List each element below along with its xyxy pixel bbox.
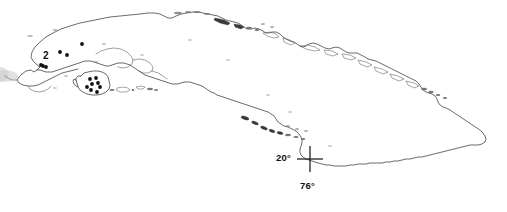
locality-dot [58,50,62,54]
map-canvas [0,0,507,212]
locality-dot [44,65,48,69]
locality-dot [88,77,92,81]
locality-dot [89,88,93,92]
latitude-label: 20° [276,152,291,163]
cuba-mainland-outline [5,12,486,166]
locality-dot [85,85,89,89]
locality-dot [98,85,102,89]
locality-dot [95,90,99,94]
jardines-de-la-reina [241,115,308,140]
locality-dots-island [85,76,102,94]
longitude-label: 76° [300,180,315,191]
map-specks [27,29,332,147]
locality-dot [96,81,100,85]
region-number-label: 2 [43,50,49,61]
locality-dot [39,63,43,67]
locality-dot [65,53,69,57]
archipielago-sabana-camaguey [174,11,447,99]
graticule-crosshair [297,146,323,172]
archipielago-canarreos [110,86,159,92]
locality-dot [80,42,84,46]
locality-dot [90,82,94,86]
locality-dot [94,76,98,80]
cuba-distribution-map: 2 20° 76° [0,0,507,212]
